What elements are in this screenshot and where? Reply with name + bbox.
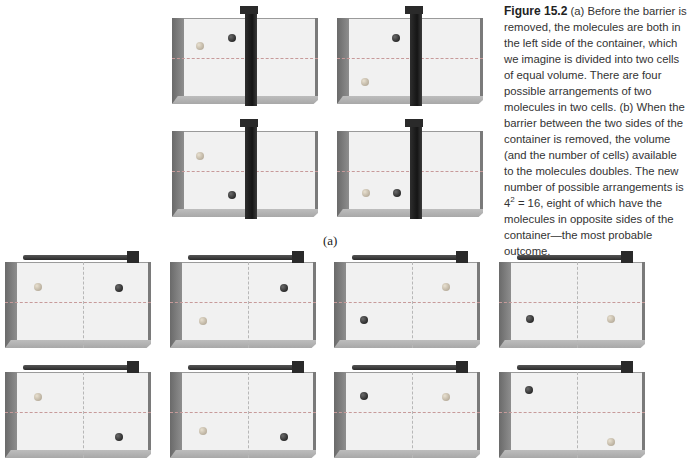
container-left-wall xyxy=(499,372,511,458)
cell-divider-vertical xyxy=(577,262,578,348)
container-left-wall xyxy=(5,262,17,348)
removed-barrier-rod xyxy=(188,255,296,260)
light-molecule xyxy=(34,283,42,291)
dark-molecule xyxy=(228,191,236,199)
figure-number: Figure 15.2 xyxy=(504,4,567,18)
container-right-edge xyxy=(480,18,483,100)
cell-divider-vertical xyxy=(83,262,84,348)
removed-barrier-handle xyxy=(456,251,468,263)
barrier xyxy=(410,123,422,219)
cell-divider-horizontal xyxy=(334,302,480,303)
light-molecule xyxy=(442,283,450,291)
light-molecule xyxy=(196,152,204,160)
container-a4 xyxy=(337,123,487,215)
barrier-handle xyxy=(240,119,258,127)
removed-barrier-handle xyxy=(292,361,304,373)
barrier-handle xyxy=(405,6,423,14)
removed-barrier-rod xyxy=(352,365,460,370)
removed-barrier-handle xyxy=(292,251,304,263)
removed-barrier-handle xyxy=(456,361,468,373)
cell-divider-horizontal xyxy=(334,412,480,413)
light-molecule xyxy=(362,189,370,197)
removed-barrier-handle xyxy=(621,361,633,373)
container-b3 xyxy=(334,254,484,346)
dark-molecule xyxy=(393,189,401,197)
cell-divider-horizontal xyxy=(499,412,645,413)
cell-divider-horizontal xyxy=(170,302,316,303)
container-left-wall xyxy=(5,372,17,458)
container-floor xyxy=(5,450,151,458)
container-right-edge xyxy=(477,372,480,454)
cell-divider-vertical xyxy=(577,372,578,458)
container-floor xyxy=(5,340,151,348)
container-b6 xyxy=(170,364,320,456)
container-b4 xyxy=(499,254,649,346)
barrier-handle xyxy=(405,119,423,127)
light-molecule xyxy=(199,317,207,325)
removed-barrier-rod xyxy=(517,365,625,370)
removed-barrier-handle xyxy=(127,251,139,263)
container-right-edge xyxy=(642,262,645,344)
cell-divider-vertical xyxy=(83,372,84,458)
barrier xyxy=(410,10,422,106)
removed-barrier-rod xyxy=(23,365,131,370)
container-right-edge xyxy=(315,18,318,100)
container-floor xyxy=(170,340,316,348)
figure-caption: Figure 15.2 (a) Before the barrier is re… xyxy=(504,3,687,259)
dark-molecule xyxy=(360,316,368,324)
container-right-edge xyxy=(477,262,480,344)
container-b5 xyxy=(5,364,155,456)
removed-barrier-rod xyxy=(352,255,460,260)
removed-barrier-rod xyxy=(517,255,625,260)
container-floor xyxy=(334,450,480,458)
removed-barrier-handle xyxy=(127,361,139,373)
light-molecule xyxy=(607,315,615,323)
dark-molecule xyxy=(392,34,400,42)
cell-divider-vertical xyxy=(412,262,413,348)
cell-divider-vertical xyxy=(248,262,249,348)
container-left-wall xyxy=(337,131,349,217)
container-b8 xyxy=(499,364,649,456)
light-molecule xyxy=(607,438,615,446)
container-left-wall xyxy=(172,18,184,104)
container-left-wall xyxy=(499,262,511,348)
dark-molecule xyxy=(115,284,123,292)
removed-barrier-rod xyxy=(23,255,131,260)
cell-divider-horizontal xyxy=(5,302,151,303)
container-floor xyxy=(170,450,316,458)
caption-text-2: = 16, eight of which have the molecules … xyxy=(504,197,674,257)
container-floor xyxy=(499,450,645,458)
container-right-edge xyxy=(313,262,316,344)
dark-molecule xyxy=(280,284,288,292)
dark-molecule xyxy=(228,34,236,42)
cell-divider-vertical xyxy=(248,372,249,458)
removed-barrier-handle xyxy=(621,251,633,263)
container-a3 xyxy=(172,123,322,215)
container-right-edge xyxy=(148,262,151,344)
container-right-edge xyxy=(480,131,483,213)
cell-divider-vertical xyxy=(412,372,413,458)
light-molecule xyxy=(199,427,207,435)
light-molecule xyxy=(196,42,204,50)
dark-molecule xyxy=(526,315,534,323)
container-right-edge xyxy=(148,372,151,454)
container-a2 xyxy=(337,10,487,102)
dark-molecule xyxy=(525,386,533,394)
container-right-edge xyxy=(642,372,645,454)
container-floor xyxy=(334,340,480,348)
dark-molecule xyxy=(280,433,288,441)
removed-barrier-rod xyxy=(188,365,296,370)
container-left-wall xyxy=(172,131,184,217)
dark-molecule xyxy=(115,433,123,441)
light-molecule xyxy=(34,393,42,401)
barrier xyxy=(245,123,257,219)
container-left-wall xyxy=(334,262,346,348)
dark-molecule xyxy=(360,392,368,400)
cell-divider-horizontal xyxy=(5,412,151,413)
container-left-wall xyxy=(334,372,346,458)
container-left-wall xyxy=(170,372,182,458)
container-floor xyxy=(499,340,645,348)
part-a-label: (a) xyxy=(323,233,337,249)
cell-divider-horizontal xyxy=(499,302,645,303)
light-molecule xyxy=(361,78,369,86)
